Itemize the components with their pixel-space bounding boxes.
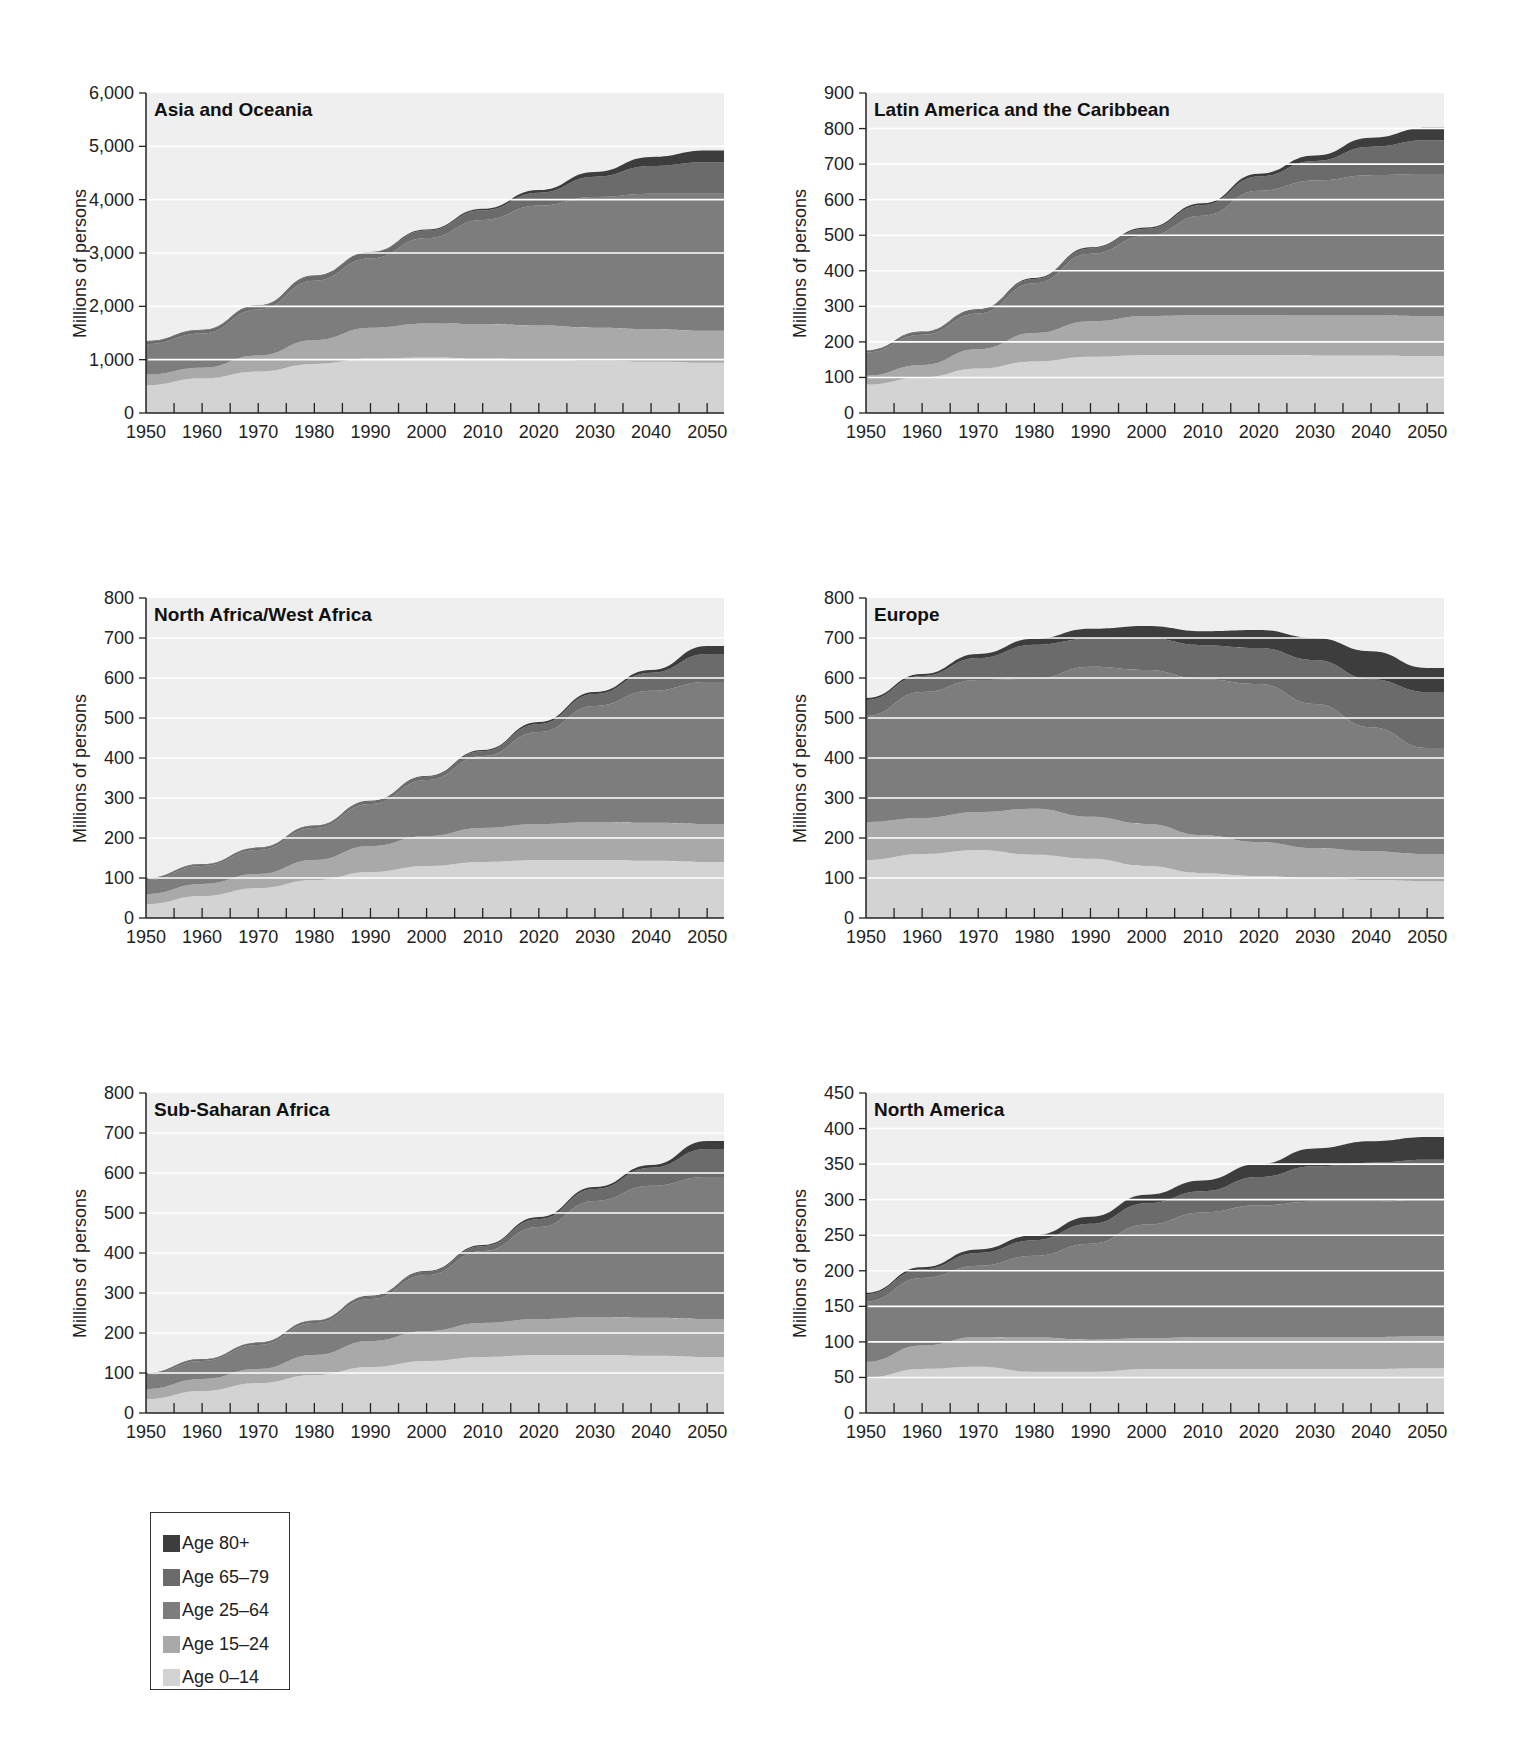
- y-tick-label: 400: [794, 749, 854, 767]
- x-tick-label: 2050: [1397, 1423, 1457, 1441]
- y-tick-label: 0: [794, 909, 854, 927]
- chart-panel-sub-saharan-africa: Sub-Saharan AfricaMillions of persons010…: [60, 1090, 760, 1510]
- x-tick-label: 1970: [228, 423, 288, 441]
- y-tick-label: 100: [74, 869, 134, 887]
- y-tick-label: 300: [74, 1284, 134, 1302]
- y-tick-label: 0: [794, 1404, 854, 1422]
- legend: Age 80+ Age 65–79 Age 25–64 Age 15–24 Ag…: [150, 1512, 290, 1690]
- y-tick-label: 700: [794, 629, 854, 647]
- y-tick-label: 250: [794, 1226, 854, 1244]
- x-tick-label: 2000: [397, 423, 457, 441]
- y-tick-label: 200: [74, 829, 134, 847]
- y-tick-label: 500: [74, 1204, 134, 1222]
- y-tick-label: 100: [794, 869, 854, 887]
- x-tick-label: 2010: [453, 423, 513, 441]
- y-tick-label: 200: [794, 333, 854, 351]
- x-tick-label: 2050: [677, 1423, 737, 1441]
- y-tick-label: 0: [74, 1404, 134, 1422]
- y-tick-label: 1,000: [74, 351, 134, 369]
- y-tick-label: 500: [74, 709, 134, 727]
- y-tick-label: 600: [794, 669, 854, 687]
- x-tick-label: 2020: [1229, 423, 1289, 441]
- x-tick-label: 2040: [621, 928, 681, 946]
- y-tick-label: 100: [794, 1333, 854, 1351]
- x-tick-label: 2020: [509, 928, 569, 946]
- y-tick-label: 800: [794, 120, 854, 138]
- x-tick-label: 1990: [340, 1423, 400, 1441]
- plot-svg: [780, 1090, 1480, 1510]
- y-tick-label: 2,000: [74, 297, 134, 315]
- x-tick-label: 2030: [565, 423, 625, 441]
- y-tick-label: 300: [794, 297, 854, 315]
- x-tick-label: 2010: [1173, 423, 1233, 441]
- x-tick-label: 2030: [1285, 1423, 1345, 1441]
- x-tick-label: 1950: [836, 1423, 896, 1441]
- x-tick-label: 2010: [1173, 1423, 1233, 1441]
- y-tick-label: 600: [74, 669, 134, 687]
- x-tick-label: 1990: [1060, 1423, 1120, 1441]
- y-tick-label: 100: [794, 368, 854, 386]
- x-tick-label: 1970: [948, 1423, 1008, 1441]
- x-tick-label: 1980: [284, 1423, 344, 1441]
- x-tick-label: 2020: [509, 1423, 569, 1441]
- chart-panel-asia-oceania: Asia and OceaniaMillions of persons01,00…: [60, 90, 760, 510]
- legend-label: Age 80+: [182, 1533, 250, 1554]
- y-tick-label: 0: [794, 404, 854, 422]
- x-tick-label: 1980: [1004, 928, 1064, 946]
- x-tick-label: 2030: [565, 928, 625, 946]
- x-tick-label: 2050: [1397, 928, 1457, 946]
- x-tick-label: 2040: [621, 423, 681, 441]
- y-tick-label: 300: [794, 789, 854, 807]
- legend-label: Age 0–14: [182, 1667, 259, 1688]
- y-tick-label: 900: [794, 84, 854, 102]
- plot-svg: [60, 1090, 760, 1510]
- y-tick-label: 500: [794, 709, 854, 727]
- chart-title: North Africa/West Africa: [154, 604, 372, 626]
- x-tick-label: 2000: [397, 928, 457, 946]
- y-tick-label: 300: [74, 789, 134, 807]
- y-tick-label: 200: [794, 829, 854, 847]
- x-tick-label: 2000: [1117, 928, 1177, 946]
- y-tick-label: 700: [794, 155, 854, 173]
- plot-svg: [780, 90, 1480, 510]
- y-tick-label: 6,000: [74, 84, 134, 102]
- y-tick-label: 600: [794, 191, 854, 209]
- x-tick-label: 2040: [1341, 928, 1401, 946]
- x-tick-label: 1980: [284, 423, 344, 441]
- y-tick-label: 400: [74, 749, 134, 767]
- chart-title: Asia and Oceania: [154, 99, 312, 121]
- x-tick-label: 1980: [284, 928, 344, 946]
- y-tick-label: 5,000: [74, 137, 134, 155]
- x-tick-label: 1970: [228, 1423, 288, 1441]
- plot-svg: [60, 595, 760, 1015]
- x-tick-label: 2040: [1341, 1423, 1401, 1441]
- x-tick-label: 1950: [116, 1423, 176, 1441]
- x-tick-label: 2040: [621, 1423, 681, 1441]
- y-tick-label: 400: [794, 262, 854, 280]
- x-tick-label: 2020: [1229, 1423, 1289, 1441]
- x-tick-label: 1950: [836, 928, 896, 946]
- chart-panel-latin-america: Latin America and the CaribbeanMillions …: [780, 90, 1480, 510]
- x-tick-label: 1990: [340, 423, 400, 441]
- y-tick-label: 4,000: [74, 191, 134, 209]
- x-tick-label: 1950: [836, 423, 896, 441]
- x-tick-label: 1960: [892, 1423, 952, 1441]
- chart-panel-north-west-africa: North Africa/West AfricaMillions of pers…: [60, 595, 760, 1015]
- y-tick-label: 50: [794, 1368, 854, 1386]
- y-tick-label: 200: [74, 1324, 134, 1342]
- chart-title: Sub-Saharan Africa: [154, 1099, 330, 1121]
- x-tick-label: 2050: [677, 928, 737, 946]
- x-tick-label: 2020: [509, 423, 569, 441]
- x-tick-label: 1960: [172, 928, 232, 946]
- y-tick-label: 100: [74, 1364, 134, 1382]
- chart-title: Europe: [874, 604, 939, 626]
- legend-label: Age 65–79: [182, 1567, 269, 1588]
- x-tick-label: 2000: [1117, 1423, 1177, 1441]
- x-tick-label: 2030: [1285, 928, 1345, 946]
- x-tick-label: 1960: [892, 423, 952, 441]
- legend-swatch-0-14: [163, 1669, 180, 1686]
- x-tick-label: 2050: [677, 423, 737, 441]
- legend-swatch-25-64: [163, 1602, 180, 1619]
- x-tick-label: 1950: [116, 928, 176, 946]
- x-tick-label: 2050: [1397, 423, 1457, 441]
